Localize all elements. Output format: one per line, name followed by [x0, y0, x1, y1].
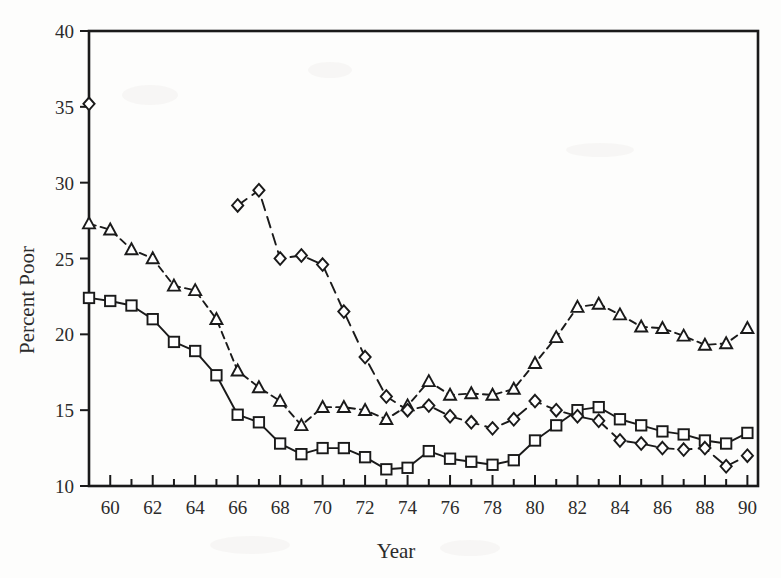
y-axis-tick-label: 35: [55, 97, 74, 118]
x-axis-tick-label: 84: [610, 497, 630, 518]
x-axis-tick-label: 80: [526, 497, 545, 518]
diamonds-series-marker: [551, 404, 562, 417]
x-axis-tick-label: 76: [441, 497, 460, 518]
squares-series-marker: [232, 410, 242, 420]
squares-series-marker: [678, 429, 688, 439]
x-axis-tick-label: 90: [738, 497, 757, 518]
diamonds-series-marker: [359, 351, 370, 364]
chart-page: 1015202530354060626466687072747678808284…: [0, 0, 781, 578]
triangles-series-marker: [423, 375, 435, 386]
triangles-series-marker: [635, 321, 647, 332]
squares-series-marker: [657, 426, 667, 436]
squares-series-marker: [721, 438, 731, 448]
diamonds-series-marker: [275, 252, 286, 265]
squares-series-marker: [402, 463, 412, 473]
x-axis-tick-label: 88: [695, 497, 714, 518]
squares-series-marker: [360, 452, 370, 462]
squares-series-marker: [317, 443, 327, 453]
squares-series-marker: [84, 293, 94, 303]
squares-series-marker: [254, 417, 264, 427]
squares-series-marker: [339, 443, 349, 453]
x-axis-tick-label: 64: [186, 497, 206, 518]
diamonds-series-marker: [338, 305, 349, 318]
x-axis-tick-label: 74: [398, 497, 418, 518]
squares-series-marker: [509, 455, 519, 465]
squares-series-marker: [487, 460, 497, 470]
x-axis-tick-label: 86: [653, 497, 672, 518]
squares-series-marker: [594, 402, 604, 412]
diamonds-series-marker: [296, 249, 307, 262]
y-axis-tick-label: 15: [55, 400, 74, 421]
diamonds-series-marker: [742, 449, 753, 462]
diamonds-series-marker: [529, 395, 540, 408]
squares-series-marker: [211, 370, 221, 380]
triangles-series-marker: [720, 337, 732, 348]
squares-series-marker: [530, 435, 540, 445]
triangles-series-marker: [614, 308, 626, 319]
squares-series-marker: [381, 464, 391, 474]
x-axis-tick-label: 70: [313, 497, 332, 518]
triangles-series-marker: [274, 395, 286, 406]
triangles-series-line: [89, 224, 747, 426]
diamonds-series-marker: [487, 422, 498, 435]
squares-series-marker: [636, 420, 646, 430]
x-axis-tick-label: 82: [568, 497, 587, 518]
squares-series-marker: [148, 314, 158, 324]
triangles-series-marker: [147, 252, 159, 263]
y-axis-tick-label: 40: [55, 21, 74, 42]
diamonds-series-marker: [657, 442, 668, 455]
triangles-series-marker: [550, 331, 562, 342]
isolated-diamond-point-marker: [83, 98, 94, 111]
plot-frame: [89, 31, 758, 486]
x-axis-title: Year: [377, 539, 416, 563]
diamonds-series-marker: [381, 390, 392, 403]
diamonds-series-marker: [232, 199, 243, 212]
triangles-series-marker: [232, 365, 244, 376]
squares-series-marker: [296, 449, 306, 459]
squares-series-marker: [466, 457, 476, 467]
diamonds-series-marker: [636, 437, 647, 450]
y-axis-tick-label: 25: [55, 249, 74, 270]
triangles-series-marker: [593, 298, 605, 309]
x-axis-tick-label: 72: [356, 497, 375, 518]
triangles-series-marker: [465, 387, 477, 398]
diamonds-series-marker: [466, 416, 477, 429]
diamonds-series-marker: [317, 258, 328, 271]
triangles-series-marker: [125, 243, 137, 254]
squares-series-marker: [742, 428, 752, 438]
x-axis-tick-label: 78: [483, 497, 502, 518]
triangles-series-marker: [741, 322, 753, 333]
poverty-rate-line-chart: 1015202530354060626466687072747678808284…: [0, 0, 781, 578]
diamonds-series-marker: [444, 410, 455, 423]
y-axis-tick-label: 10: [55, 476, 74, 497]
triangles-series-marker: [380, 413, 392, 424]
squares-series-marker: [105, 296, 115, 306]
squares-series-marker: [551, 420, 561, 430]
x-axis-tick-label: 62: [143, 497, 162, 518]
squares-series-marker: [169, 337, 179, 347]
triangles-series-marker: [253, 381, 265, 392]
diamonds-series-marker: [678, 443, 689, 456]
diamonds-series-marker: [253, 184, 264, 197]
y-axis-tick-label: 20: [55, 324, 74, 345]
x-axis-tick-label: 68: [271, 497, 290, 518]
squares-series-marker: [190, 346, 200, 356]
squares-series-marker: [275, 438, 285, 448]
x-axis-tick-label: 60: [101, 497, 120, 518]
triangles-series-marker: [83, 217, 95, 228]
x-axis-tick-label: 66: [228, 497, 247, 518]
squares-series-marker: [424, 446, 434, 456]
y-axis-tick-label: 30: [55, 173, 74, 194]
squares-series-marker: [615, 414, 625, 424]
diamonds-series-marker: [423, 399, 434, 412]
squares-series-marker: [445, 454, 455, 464]
y-axis-title: Percent Poor: [15, 246, 39, 354]
squares-series-marker: [126, 300, 136, 310]
squares-series-line: [89, 298, 747, 469]
